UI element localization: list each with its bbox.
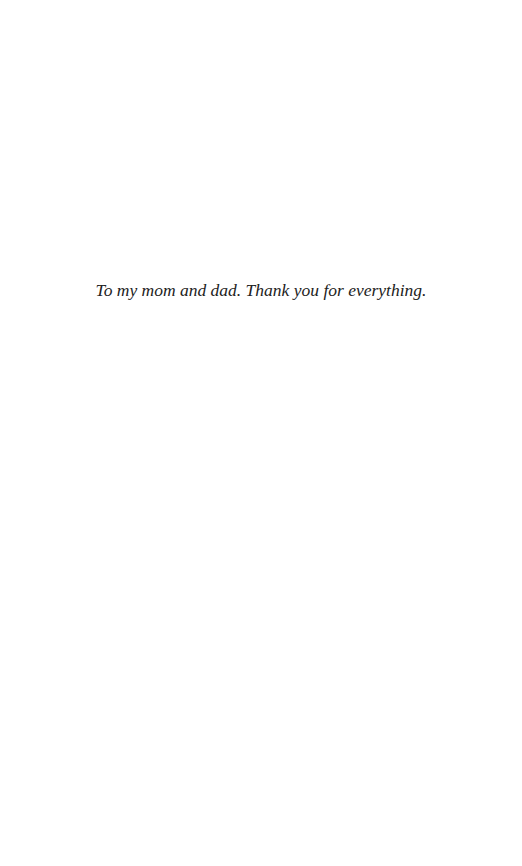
dedication-text: To my mom and dad. Thank you for everyth… [0, 279, 522, 301]
book-page: To my mom and dad. Thank you for everyth… [0, 0, 522, 866]
